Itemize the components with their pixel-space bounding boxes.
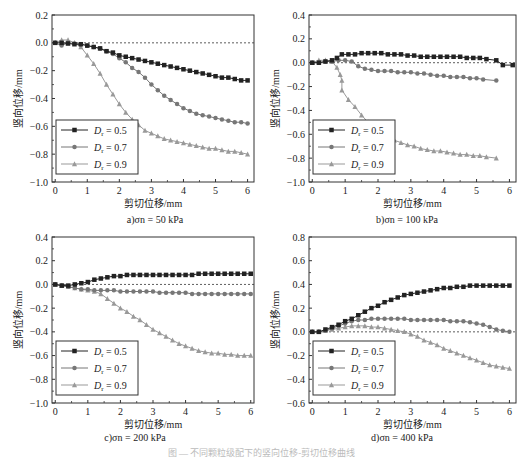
chart-panel-c: 0.40.20.0−0.2−0.4−0.6−0.8−1.00123456剪切位移… [0, 225, 262, 447]
y-tick-label: 0.4 [293, 279, 306, 290]
y-tick-label: −0.6 [30, 121, 48, 132]
y-tick-label: 0.6 [293, 255, 306, 266]
x-tick-label: 5 [474, 185, 479, 196]
x-tick-label: 3 [408, 406, 413, 417]
legend: Dr = 0.5Dr = 0.7Dr = 0.9 [56, 120, 138, 174]
x-tick-label: 4 [183, 406, 188, 417]
x-tick-label: 1 [85, 406, 90, 417]
y-tick-label: −1.0 [30, 177, 48, 188]
x-tick-label: 4 [441, 185, 446, 196]
y-tick-label: 0.0 [293, 326, 306, 337]
x-tick-label: 6 [248, 406, 253, 417]
y-tick-label: −0.4 [287, 374, 305, 385]
y-axis-label: 竖向位移/mm [12, 69, 24, 128]
legend: Dr = 0.5Dr = 0.7Dr = 0.9 [313, 341, 395, 395]
y-tick-label: −0.8 [287, 153, 305, 164]
y-tick-label: −0.2 [287, 350, 305, 361]
y-tick-label: 0.0 [293, 57, 306, 68]
x-axis-label: 剪切位移/mm [383, 418, 442, 430]
x-tick-label: 2 [376, 406, 381, 417]
y-tick-label: −0.6 [287, 129, 305, 140]
x-tick-label: 0 [310, 406, 315, 417]
legend: Dr = 0.5Dr = 0.7Dr = 0.9 [56, 341, 138, 395]
x-tick-label: 5 [216, 406, 221, 417]
series-square [53, 272, 253, 288]
y-tick-label: 0.2 [36, 10, 49, 21]
x-tick-label: 0 [53, 185, 58, 196]
x-axis-label: 剪切位移/mm [383, 197, 442, 209]
x-tick-label: 1 [85, 185, 90, 196]
y-axis-label: 竖向位移/mm [269, 69, 281, 128]
series-circle [53, 41, 250, 126]
y-tick-label: 0.0 [36, 37, 49, 48]
chart-svg-d: 0.80.60.40.20.0−0.2−0.4−0.60123456剪切位移/m… [262, 225, 523, 435]
figure-caption: 图 — 不同颗粒级配下的竖向位移-剪切位移曲线 [0, 446, 523, 459]
panel-caption-a: a)σn = 50 kPa [55, 214, 255, 225]
y-tick-label: −0.6 [287, 398, 305, 409]
chart-svg-c: 0.40.20.0−0.2−0.4−0.6−0.8−1.00123456剪切位移… [0, 225, 262, 435]
x-tick-label: 3 [151, 406, 156, 417]
y-tick-label: −0.6 [30, 350, 48, 361]
x-tick-label: 6 [507, 406, 512, 417]
y-tick-label: −0.4 [287, 105, 305, 116]
x-tick-label: 3 [408, 185, 413, 196]
x-tick-label: 0 [310, 185, 315, 196]
y-axis-label: 竖向位移/mm [269, 291, 281, 350]
y-tick-label: −0.2 [30, 65, 48, 76]
chart-panel-d: 0.80.60.40.20.0−0.2−0.4−0.60123456剪切位移/m… [262, 225, 523, 447]
chart-panel-a: 0.20.0−0.2−0.4−0.6−0.8−1.00123456剪切位移/mm… [0, 0, 262, 228]
panel-caption-c: c)σn = 200 kPa [35, 432, 235, 443]
y-tick-label: −0.8 [30, 374, 48, 385]
y-tick-label: −0.4 [30, 93, 48, 104]
x-tick-label: 5 [474, 406, 479, 417]
x-tick-label: 4 [181, 185, 186, 196]
series-square [310, 283, 512, 334]
y-tick-label: −1.0 [287, 177, 305, 188]
chart-svg-a: 0.20.0−0.2−0.4−0.6−0.8−1.00123456剪切位移/mm… [0, 0, 262, 214]
y-tick-label: 0.4 [36, 232, 49, 243]
y-tick-label: 0.0 [36, 279, 49, 290]
y-tick-label: −0.4 [30, 326, 48, 337]
legend: Dr = 0.5Dr = 0.7Dr = 0.9 [313, 120, 395, 174]
x-tick-label: 6 [507, 185, 512, 196]
y-tick-label: 0.4 [293, 10, 306, 21]
x-tick-label: 0 [53, 406, 58, 417]
y-tick-label: 0.2 [36, 255, 49, 266]
chart-panel-b: 0.40.20.0−0.2−0.4−0.6−0.8−1.00123456剪切位移… [262, 0, 523, 228]
x-tick-label: 2 [376, 185, 381, 196]
x-tick-label: 1 [343, 406, 348, 417]
x-tick-label: 3 [149, 185, 154, 196]
panel-caption-b: b)σn = 100 kPa [307, 214, 507, 225]
x-tick-label: 2 [117, 185, 122, 196]
y-axis-label: 竖向位移/mm [12, 291, 24, 350]
x-tick-label: 4 [441, 406, 446, 417]
panel-caption-d: d)σn = 400 kPa [302, 432, 502, 443]
x-axis-label: 剪切位移/mm [124, 197, 183, 209]
y-tick-label: −0.8 [30, 149, 48, 160]
y-tick-label: 0.8 [293, 232, 306, 243]
y-tick-label: −0.2 [30, 303, 48, 314]
x-tick-label: 2 [118, 406, 123, 417]
series-square [310, 51, 515, 67]
x-axis-label: 剪切位移/mm [124, 418, 183, 430]
series-square [53, 41, 250, 83]
chart-svg-b: 0.40.20.0−0.2−0.4−0.6−0.8−1.00123456剪切位移… [262, 0, 523, 214]
y-tick-label: −0.2 [287, 81, 305, 92]
y-tick-label: −1.0 [30, 398, 48, 409]
x-tick-label: 5 [213, 185, 218, 196]
x-tick-label: 1 [343, 185, 348, 196]
y-tick-label: 0.2 [293, 303, 306, 314]
y-tick-label: 0.2 [293, 33, 306, 44]
x-tick-label: 6 [245, 185, 250, 196]
